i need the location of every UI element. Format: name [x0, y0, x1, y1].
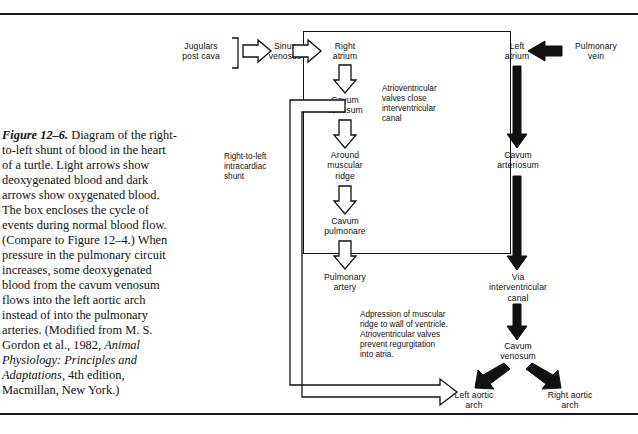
arrow-right-atrium-to-cavum-venosum	[334, 65, 356, 93]
flow-diagram: Jugulars post cava Sinus venosus Right a…	[0, 0, 638, 434]
arrow-cavum-venosum-to-right-aortic-arch	[526, 363, 561, 389]
jugulars-bracket	[232, 38, 238, 68]
arrow-via-canal-to-cavum-venosum	[507, 304, 527, 340]
arrow-cavum-venosum-to-muscular-ridge	[334, 120, 356, 148]
arrow-left-atrium-to-cavum-arteriosum	[507, 66, 527, 148]
arrow-cavum-venosum-to-left-aortic-arch	[475, 363, 510, 389]
arrow-muscular-ridge-to-cavum-pulmonare	[334, 186, 356, 214]
arrow-cavum-pulmonare-to-pulmonary-artery	[334, 241, 356, 269]
arrow-cavum-arteriosum-to-via-canal	[507, 176, 527, 270]
arrow-jugulars-to-sinus	[243, 40, 271, 62]
shunt-channel-outline	[290, 100, 457, 405]
arrow-pulmonary-vein-to-left-atrium	[528, 41, 562, 61]
diagram-vector-layer	[0, 0, 638, 434]
arrow-sinus-to-right-atrium	[293, 40, 321, 62]
